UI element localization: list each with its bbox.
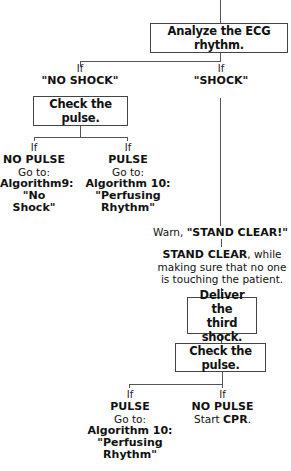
check-pulse-label-2: Check the pulse. (176, 344, 265, 372)
analyze-ecg-box: Analyze the ECG rhythm. (150, 23, 288, 53)
connector-check2-branch (129, 384, 223, 385)
warn-emphasis: "STAND CLEAR!" (187, 226, 288, 239)
connector-top (220, 0, 221, 24)
connector-check2-down (222, 371, 223, 384)
connector-check1-left (34, 137, 35, 141)
deliver-line1: Deliver the (188, 288, 256, 316)
check-pulse-label-1: Check the pulse. (34, 97, 127, 125)
connector-check1-right (127, 137, 128, 141)
deliver-line2: third shock. (188, 316, 256, 344)
check-pulse-box-1: Check the pulse. (33, 96, 128, 126)
action-suffix: . (248, 413, 251, 425)
algorithm-name: "No Shock" (0, 190, 68, 214)
no-pulse-outcome-1: If NO PULSE Go to: Algorithm9: "No Shock… (0, 142, 68, 214)
pulse-condition: PULSE (77, 154, 179, 166)
warn-prefix: Warn, (153, 226, 187, 238)
stand-clear-instruction: STAND CLEAR, while making sure that no o… (155, 248, 289, 285)
branch-shock: If "SHOCK" (180, 63, 262, 87)
connector-shock-down (220, 98, 221, 226)
warn-stand-clear: Warn, "STAND CLEAR!" (150, 226, 291, 239)
connector-check2-right (222, 384, 223, 388)
branch-no-shock: If "NO SHOCK" (20, 63, 140, 87)
no-pulse-condition: NO PULSE (0, 154, 68, 166)
algorithm-name: "Perfusing Rhythm" (78, 437, 182, 461)
check-pulse-box-2: Check the pulse. (175, 343, 266, 372)
pulse-outcome-1: If PULSE Go to: Algorithm 10: "Perfusing… (77, 142, 179, 214)
action-prefix: Start (194, 413, 223, 425)
connector-branch-horizontal (80, 61, 221, 62)
connector-warn-down (221, 239, 222, 247)
analyze-ecg-label: Analyze the ECG rhythm. (151, 24, 287, 52)
connector-check1-branch (34, 137, 128, 138)
no-pulse-condition: NO PULSE (185, 401, 260, 413)
stand-clear-line3: is touching the patient. (155, 273, 289, 285)
algorithm-name: "Perfusing Rhythm" (77, 190, 179, 214)
deliver-third-shock-box: Deliver the third shock. (187, 297, 257, 334)
stand-clear-line2: making sure that no one (155, 261, 289, 273)
connector-check2-left (129, 384, 130, 388)
pulse-condition: PULSE (78, 401, 182, 413)
stand-clear-rest: , while (247, 248, 281, 260)
no-shock-condition: "NO SHOCK" (20, 75, 140, 87)
stand-clear-emphasis: STAND CLEAR (162, 248, 247, 261)
action-emphasis: CPR (223, 413, 248, 426)
shock-condition: "SHOCK" (180, 75, 262, 87)
no-pulse-outcome-2: If NO PULSE Start CPR. (185, 389, 260, 426)
pulse-outcome-2: If PULSE Go to: Algorithm 10: "Perfusing… (78, 389, 182, 461)
